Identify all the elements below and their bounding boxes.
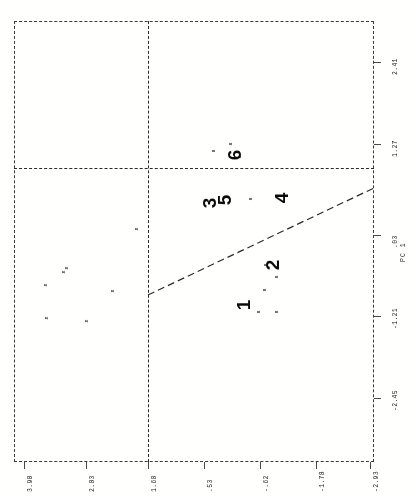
right-tick-label-3: -1.21 [392, 308, 399, 329]
bottom-tick-6 [370, 462, 371, 469]
right-tick-3 [374, 316, 381, 317]
data-point-x-0: x [44, 283, 49, 286]
discriminant-line [148, 188, 374, 295]
right-tick-2 [374, 235, 381, 236]
right-tick-0 [374, 62, 381, 63]
figure-canvas: 3.982.831.68.53-.62-1.78-2.93 2.411.27.0… [0, 0, 411, 501]
bottom-tick-label-2: 1.68 [151, 475, 158, 492]
axis-title-pc1: PC 1 [400, 242, 407, 262]
bottom-tick-5 [316, 462, 317, 469]
cluster-label-6: 6 [225, 150, 244, 161]
right-tick-label-0: 2.41 [392, 58, 399, 75]
bottom-tick-label-6: -2.93 [373, 471, 380, 492]
bottom-tick-0 [24, 462, 25, 469]
bottom-tick-2 [148, 462, 149, 469]
data-point-x-1: x [62, 270, 67, 273]
data-point-s-5: s [249, 197, 254, 200]
right-tick-label-1: 1.27 [392, 140, 399, 157]
bottom-tick-1 [86, 462, 87, 469]
data-point-s-3: s [257, 310, 262, 313]
right-tick-4 [374, 398, 381, 399]
data-point-s-2: s [263, 288, 268, 291]
bottom-tick-label-5: -1.78 [319, 471, 326, 492]
data-point-x-5: x [111, 289, 116, 292]
cluster-label-1: 1 [234, 300, 253, 311]
data-point-s-1: s [275, 275, 280, 278]
data-point-s-7: s [212, 149, 217, 152]
bottom-tick-label-1: 2.83 [89, 475, 96, 492]
data-point-x-3: x [65, 266, 70, 269]
bottom-tick-label-4: -.62 [263, 475, 270, 492]
right-tick-1 [374, 144, 381, 145]
cluster-label-2: 2 [263, 260, 282, 271]
right-tick-label-2: .03 [392, 235, 399, 248]
cluster-label-4: 4 [272, 193, 291, 204]
data-point-s-4: s [275, 310, 280, 313]
horizontal-divider-line [14, 168, 374, 169]
data-point-x-4: x [85, 319, 90, 322]
data-point-x-6: x [135, 227, 140, 230]
cluster-label-5: 5 [215, 195, 234, 206]
bottom-tick-label-0: 3.98 [27, 475, 34, 492]
data-point-s-8: s [229, 142, 234, 145]
bottom-tick-4 [260, 462, 261, 469]
bottom-tick-label-3: .53 [207, 479, 214, 492]
data-point-x-2: x [45, 316, 50, 319]
right-tick-label-4: -2.45 [392, 390, 399, 411]
bottom-tick-3 [204, 462, 205, 469]
